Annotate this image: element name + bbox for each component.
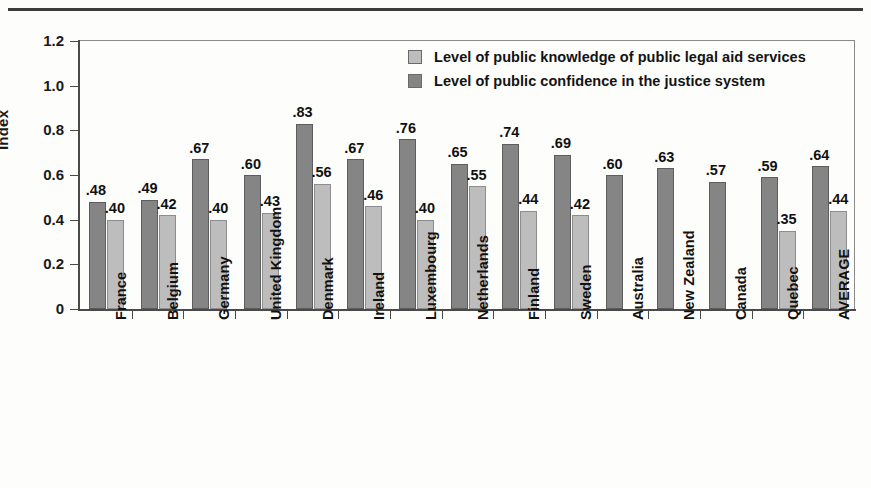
x-axis-label: AVERAGE	[836, 249, 852, 320]
legend-item: Level of public confidence in the justic…	[408, 70, 806, 92]
x-axis-tick	[338, 311, 339, 319]
y-axis-tick	[70, 175, 78, 176]
bar-value-label: .40	[415, 201, 435, 216]
bar-value-label: .35	[777, 212, 797, 227]
bar-confidence	[709, 182, 726, 309]
bar-value-label: .60	[241, 157, 261, 172]
bar-value-label: .42	[157, 197, 177, 212]
bar-value-label: .76	[396, 121, 416, 136]
x-axis-label: Netherlands	[475, 235, 491, 320]
y-axis-tick	[70, 41, 78, 42]
bar-value-label: .67	[344, 141, 364, 156]
bar-confidence	[761, 177, 778, 309]
x-axis-label: Denmark	[320, 257, 336, 320]
bar-value-label: .83	[293, 105, 313, 120]
bar-confidence	[192, 159, 209, 309]
y-axis-tick	[70, 86, 78, 87]
x-axis-label: Australia	[630, 257, 646, 320]
x-axis-tick	[287, 311, 288, 319]
legend-swatch-icon	[408, 50, 422, 64]
y-axis-tick	[70, 130, 78, 131]
x-axis-label: Quebec	[785, 266, 801, 320]
legend-label: Level of public knowledge of public lega…	[434, 49, 806, 65]
x-axis-label: Germany	[216, 256, 232, 320]
x-axis-tick	[442, 311, 443, 319]
bar-value-label: .49	[138, 181, 158, 196]
legend-swatch-icon	[408, 74, 422, 88]
x-axis-tick	[545, 311, 546, 319]
x-axis-label: Ireland	[371, 272, 387, 320]
y-axis-tick-label: 0.8	[22, 122, 64, 137]
x-axis-tick	[390, 311, 391, 319]
bar-value-label: .65	[448, 145, 468, 160]
y-axis-tick-label: 0.2	[22, 256, 64, 271]
bar-confidence	[502, 144, 519, 309]
bar-value-label: .67	[189, 141, 209, 156]
y-axis-tick	[70, 220, 78, 221]
x-axis-tick	[183, 311, 184, 319]
bar-value-label: .44	[828, 192, 848, 207]
bar-value-label: .40	[208, 201, 228, 216]
bar-value-label: .74	[499, 125, 519, 140]
bar-value-label: .69	[551, 136, 571, 151]
y-axis-tick-label: 1.2	[22, 33, 64, 48]
header-rule	[8, 8, 863, 11]
bar-confidence	[399, 139, 416, 309]
y-axis-tick-label: 0.6	[22, 167, 64, 182]
bar-value-label: .48	[86, 183, 106, 198]
y-axis-tick	[70, 309, 78, 310]
bar-confidence	[606, 175, 623, 309]
bar-confidence	[554, 155, 571, 309]
bar-confidence	[89, 202, 106, 309]
bar-confidence	[657, 168, 674, 309]
bar-value-label: .64	[809, 148, 829, 163]
bar-value-label: .42	[570, 197, 590, 212]
y-axis-tick-label: 0.4	[22, 212, 64, 227]
bar-value-label: .57	[706, 163, 726, 178]
bar-value-label: .56	[312, 165, 332, 180]
x-axis-tick	[700, 311, 701, 319]
bar-group: .67.46	[347, 41, 383, 309]
x-axis-tick	[752, 311, 753, 319]
bar-confidence	[296, 124, 313, 309]
bar-value-label: .46	[363, 188, 383, 203]
legend-item: Level of public knowledge of public lega…	[408, 46, 806, 68]
x-axis-label: Finland	[526, 268, 542, 320]
y-axis-title: Index	[0, 110, 11, 150]
x-axis-label: Luxembourg	[423, 231, 439, 320]
bar-confidence	[141, 200, 158, 309]
x-axis-tick	[493, 311, 494, 319]
bar-value-label: .55	[467, 168, 487, 183]
bar-group: .48.40	[89, 41, 125, 309]
x-axis-tick	[235, 311, 236, 319]
x-axis-label: United Kingdom	[268, 207, 284, 320]
bar-value-label: .44	[518, 192, 538, 207]
x-axis-tick	[597, 311, 598, 319]
x-axis-label: Sweden	[578, 265, 594, 320]
bar-value-label: .40	[105, 201, 125, 216]
chart-legend: Level of public knowledge of public lega…	[408, 46, 806, 94]
bar-value-label: .63	[654, 150, 674, 165]
x-axis-label: Canada	[733, 267, 749, 320]
bar-confidence	[347, 159, 364, 309]
x-axis-label: Belgium	[165, 262, 181, 320]
x-axis-tick	[132, 311, 133, 319]
bar-value-label: .60	[603, 157, 623, 172]
bar-confidence	[244, 175, 261, 309]
x-axis-tick	[648, 311, 649, 319]
x-axis-label: New Zealand	[681, 230, 697, 320]
chart-figure: Index 00.20.40.60.81.01.2 .48.40.49.42.6…	[0, 0, 871, 488]
y-axis-tick	[70, 264, 78, 265]
legend-label: Level of public confidence in the justic…	[434, 73, 765, 89]
bar-value-label: .59	[758, 159, 778, 174]
y-axis-tick-label: 0	[22, 301, 64, 316]
bar-confidence	[812, 166, 829, 309]
y-axis-tick-label: 1.0	[22, 78, 64, 93]
bar-confidence	[451, 164, 468, 309]
x-axis-label: France	[113, 272, 129, 320]
x-axis-tick	[803, 311, 804, 319]
